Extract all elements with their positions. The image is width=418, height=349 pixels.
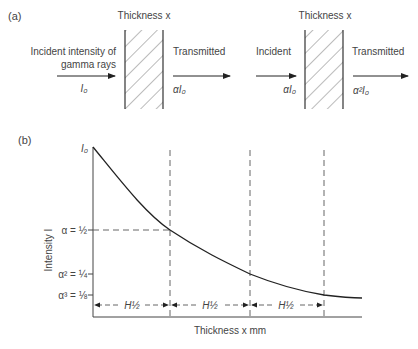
y-tick-half: α = ½ (61, 225, 87, 236)
y-tick-i0: I₀ (81, 143, 88, 154)
chart: Intensity I Thickness x mm I₀ α = ½ α² =… (43, 143, 362, 336)
y-axis-label: Intensity I (43, 229, 54, 272)
slab-2: Thickness x (299, 10, 352, 109)
incident-2-symbol: αI₀ (283, 84, 296, 95)
x-axis-label: Thickness x mm (194, 325, 266, 336)
panel-a-label: (a) (8, 10, 21, 22)
y-tick-quarter: α² = ¼ (58, 269, 88, 280)
slab-1: Thickness x (118, 10, 171, 109)
attenuation-curve (93, 147, 362, 298)
slab-1-title: Thickness x (118, 10, 171, 21)
transmitted-2-label: Transmitted (352, 46, 404, 57)
transmitted-2-symbol: α²I₀ (353, 85, 369, 96)
y-tick-eighth: α³ = ⅛ (58, 290, 88, 301)
panel-b-label: (b) (18, 134, 31, 146)
half-value-label-3: H½ (278, 300, 294, 311)
incident-1-symbol: I₀ (81, 83, 88, 94)
incident-2-label: Incident (256, 46, 291, 57)
incident-1-line2: gamma rays (61, 59, 116, 70)
transmitted-1-label: Transmitted (173, 46, 225, 57)
attenuation-diagram: (a) Thickness x Incident intensity of ga… (0, 0, 418, 349)
transmitted-1-symbol: αI₀ (173, 84, 186, 95)
half-value-label-1: H½ (124, 300, 140, 311)
slab-2-title: Thickness x (299, 10, 352, 21)
incident-1-line1: Incident intensity of (30, 46, 116, 57)
half-value-label-2: H½ (202, 300, 218, 311)
